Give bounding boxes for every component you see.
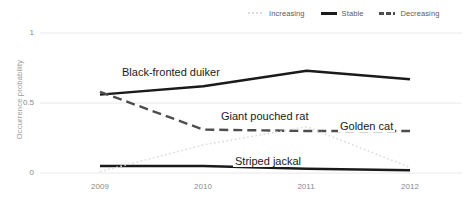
x-axis-tick-2009: 2009 [80,182,120,191]
y-axis-tick-0: 0 [8,168,34,177]
x-axis-tick-2010: 2010 [183,182,223,191]
x-axis-tick-2012: 2012 [390,182,430,191]
plot-area [0,0,471,206]
y-axis-tick-1: 1 [8,28,34,37]
series-label-black-fronted-duiker: Black-fronted duiker [120,66,222,78]
chart-container: Increasing Stable Decreasing 1 0.5 0 Occ… [0,0,471,206]
gridlines [40,33,462,173]
x-axis-tick-2011: 2011 [286,182,326,191]
y-axis-title: Occurrence probability [15,45,24,155]
series-label-golden-cat: Golden cat [338,120,395,132]
series-label-striped-jackal: Striped jackal [233,155,303,167]
series-label-giant-pouched-rat: Giant pouched rat [219,110,310,122]
